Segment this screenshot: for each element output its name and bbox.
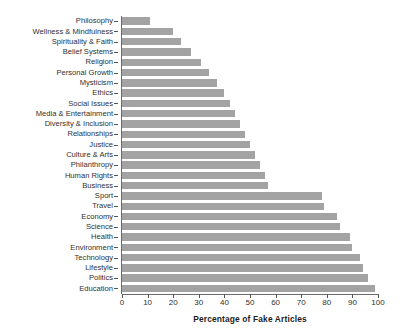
y-axis-tick-mark [114,165,118,166]
y-axis-tick-mark [114,134,118,135]
y-axis-label: Philanthropy [71,161,114,169]
bar [122,285,375,292]
y-axis-label-row: Wellness & Mindfulness [0,26,114,36]
y-axis-label-row: Mysticism [0,78,114,88]
y-axis-label: Economy [81,213,114,221]
y-axis-label: Education [79,285,114,293]
y-axis-label: Business [82,182,114,190]
y-axis-label-row: Social Issues [0,98,114,108]
bar-row [122,16,378,26]
y-axis-label-row: Environment [0,242,114,252]
plot-area [122,16,378,294]
y-axis-label-row: Diversity & Inclusion [0,119,114,129]
bar [122,182,268,189]
y-axis-tick-mark [114,103,118,104]
y-axis-tick-mark [114,288,118,289]
y-axis-tick-mark [114,31,118,32]
y-axis-tick-mark [114,21,118,22]
x-axis-tick-label: 40 [220,299,229,307]
bar-row [122,201,378,211]
bar-row [122,181,378,191]
bar [122,120,240,127]
bar-row [122,119,378,129]
bar [122,192,322,199]
bar-row [122,211,378,221]
y-axis-label-row: Spirituality & Faith [0,37,114,47]
x-axis-tick-label: 80 [322,299,331,307]
bar [122,213,337,220]
y-axis-label: Health [91,233,114,241]
y-axis-label: Sport [95,192,114,200]
y-axis-tick-mark [114,206,118,207]
y-axis-label-row: Human Rights [0,170,114,180]
y-axis-tick-mark [114,237,118,238]
bar-row [122,26,378,36]
y-axis-label: Wellness & Mindfulness [33,28,114,36]
bar [122,17,150,24]
bar-row [122,160,378,170]
bar-row [122,150,378,160]
y-axis-label: Belief Systems [63,48,114,56]
bar [122,203,324,210]
y-axis-label: Social Issues [68,100,114,108]
bar-row [122,98,378,108]
y-axis-label-row: Media & Entertainment [0,109,114,119]
y-axis-tick-mark [114,227,118,228]
y-axis-label: Media & Entertainment [36,110,114,118]
y-axis-label-row: Lifestyle [0,263,114,273]
bar [122,223,340,230]
bar-row [122,170,378,180]
y-axis-label-row: Belief Systems [0,47,114,57]
y-axis-tick-mark [114,83,118,84]
y-axis-label-row: Justice [0,139,114,149]
bar [122,79,217,86]
x-axis-tick-label: 0 [120,299,124,307]
bar [122,69,209,76]
y-axis-label: Religion [86,58,114,66]
y-axis-label-row: Ethics [0,88,114,98]
bar-row [122,263,378,273]
bar [122,274,368,281]
bar-row [122,273,378,283]
y-axis-label-row: Philanthropy [0,160,114,170]
y-axis-tick-mark [114,114,118,115]
y-axis-tick-mark [114,42,118,43]
y-axis-tick-mark [114,62,118,63]
y-axis-label: Mysticism [80,79,114,87]
y-axis-tick-mark [114,196,118,197]
y-axis-label: Lifestyle [85,264,114,272]
y-axis-tick-mark [114,247,118,248]
bar-row [122,222,378,232]
y-axis-label: Philosophy [76,17,114,25]
bar [122,100,230,107]
bar-row [122,47,378,57]
bar [122,172,265,179]
y-axis-label-row: Culture & Arts [0,150,114,160]
x-axis-tick-label: 90 [348,299,357,307]
x-axis-tick-label: 30 [194,299,203,307]
bar [122,28,173,35]
y-axis-label: Technology [75,254,114,262]
y-axis-label: Personal Growth [56,69,114,77]
y-axis-label: Politics [89,274,114,282]
y-axis-label-row: Travel [0,201,114,211]
bar-row [122,109,378,119]
bar [122,244,352,251]
y-axis-label-row: Business [0,181,114,191]
bar-row [122,191,378,201]
y-axis-category-labels: PhilosophyWellness & MindfulnessSpiritua… [0,16,114,294]
y-axis-label: Travel [92,202,114,210]
y-axis-label: Relationships [67,130,114,138]
y-axis-label-row: Economy [0,211,114,221]
y-axis-label: Science [86,223,114,231]
y-axis-label-row: Technology [0,252,114,262]
bar-row [122,129,378,139]
bar [122,254,360,261]
x-axis-tick-label: 20 [169,299,178,307]
bar [122,264,363,271]
y-axis-label: Human Rights [65,172,114,180]
bar-row [122,78,378,88]
y-axis-label-row: Religion [0,57,114,67]
bar [122,161,260,168]
bar [122,151,255,158]
